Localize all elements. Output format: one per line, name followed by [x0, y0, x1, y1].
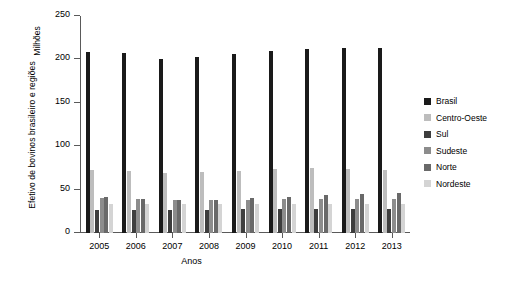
- x-axis-title-text: Anos: [181, 256, 202, 266]
- bar-brasil-2006: [122, 53, 126, 233]
- bar-sul-2005: [95, 210, 99, 233]
- bar-nordeste-2005: [109, 204, 113, 233]
- x-tick-label-2012: 2012: [345, 241, 365, 251]
- y-tick-mark: [74, 145, 80, 146]
- legend-item-label: Sul: [436, 130, 448, 139]
- bar-centrooeste-2010: [273, 169, 277, 233]
- y-tick-label: 0: [65, 226, 70, 236]
- x-tick-mark-2009: [246, 233, 247, 238]
- bar-group-2010: [264, 16, 301, 233]
- x-tick-mark-2011: [319, 233, 320, 238]
- plot-area: [81, 16, 410, 233]
- bar-sul-2011: [314, 209, 318, 233]
- bar-nordeste-2007: [182, 204, 186, 233]
- bar-norte-2012: [360, 194, 364, 233]
- bar-centrooeste-2007: [163, 173, 167, 233]
- x-tick-label-2013: 2013: [382, 241, 402, 251]
- legend-item-sudeste[interactable]: Sudeste: [424, 143, 487, 160]
- y-axis-unit-label: Milhões: [32, 11, 42, 71]
- y-tick-label: 100: [55, 139, 70, 149]
- y-tick-100: 100: [74, 145, 80, 146]
- legend-item-nordeste[interactable]: Nordeste: [424, 176, 487, 193]
- x-tick-mark-2012: [355, 233, 356, 238]
- y-tick-mark: [74, 102, 80, 103]
- bar-sudeste-2005: [100, 198, 104, 233]
- y-tick-200: 200: [74, 58, 80, 59]
- bar-nordeste-2006: [145, 204, 149, 233]
- bar-norte-2011: [324, 195, 328, 233]
- bar-nordeste-2011: [328, 204, 332, 233]
- legend-item-norte[interactable]: Norte: [424, 159, 487, 176]
- bar-brasil-2011: [305, 49, 309, 233]
- y-tick-250: 250: [74, 15, 80, 16]
- bar-norte-2008: [214, 200, 218, 233]
- legend-swatch-icon: [424, 114, 431, 121]
- bar-nordeste-2012: [365, 204, 369, 233]
- bar-centrooeste-2013: [383, 170, 387, 233]
- bar-nordeste-2010: [292, 204, 296, 233]
- bar-norte-2010: [287, 197, 291, 233]
- y-tick-150: 150: [74, 102, 80, 103]
- y-tick-mark: [74, 58, 80, 59]
- bar-sudeste-2013: [392, 199, 396, 233]
- x-tick-mark-2007: [172, 233, 173, 238]
- bar-sul-2013: [387, 209, 391, 233]
- legend-item-brasil[interactable]: Brasil: [424, 93, 487, 110]
- bar-centrooeste-2012: [346, 169, 350, 233]
- legend-swatch-icon: [424, 98, 431, 105]
- x-tick-mark-2013: [392, 233, 393, 238]
- bar-brasil-2012: [342, 48, 346, 233]
- bar-sul-2009: [241, 209, 245, 233]
- x-tick-mark-2008: [209, 233, 210, 238]
- bar-norte-2009: [250, 198, 254, 233]
- legend-swatch-icon: [424, 147, 431, 154]
- legend-swatch-icon: [424, 131, 431, 138]
- y-tick-mark: [74, 189, 80, 190]
- bar-group-2013: [373, 16, 410, 233]
- bar-norte-2007: [177, 200, 181, 233]
- y-tick-label: 200: [55, 52, 70, 62]
- legend-swatch-icon: [424, 180, 431, 187]
- bar-nordeste-2013: [401, 204, 405, 233]
- bar-group-2005: [81, 16, 118, 233]
- bar-centrooeste-2005: [90, 170, 94, 233]
- y-tick-0: 0: [74, 232, 80, 233]
- x-tick-mark-2005: [99, 233, 100, 238]
- x-tick-mark-2006: [136, 233, 137, 238]
- bar-sul-2007: [168, 210, 172, 233]
- bar-sul-2008: [205, 210, 209, 233]
- bar-sudeste-2007: [173, 200, 177, 233]
- x-tick-label-2010: 2010: [272, 241, 292, 251]
- bar-sul-2012: [351, 209, 355, 233]
- legend-item-centrooeste[interactable]: Centro-Oeste: [424, 110, 487, 127]
- y-tick-mark: [74, 15, 80, 16]
- bar-centrooeste-2009: [237, 171, 241, 233]
- bar-brasil-2005: [86, 52, 90, 233]
- bar-brasil-2013: [378, 48, 382, 233]
- x-tick-mark-2010: [282, 233, 283, 238]
- y-tick-label: 150: [55, 96, 70, 106]
- bar-sudeste-2010: [282, 199, 286, 233]
- bar-sudeste-2009: [246, 200, 250, 233]
- legend-item-sul[interactable]: Sul: [424, 126, 487, 143]
- bar-norte-2006: [141, 199, 145, 233]
- bar-sudeste-2006: [136, 199, 140, 233]
- x-tick-label-2008: 2008: [199, 241, 219, 251]
- bar-group-2011: [300, 16, 337, 233]
- bar-centrooeste-2008: [200, 172, 204, 233]
- legend-swatch-icon: [424, 164, 431, 171]
- bar-norte-2005: [104, 197, 108, 233]
- y-tick-label: 250: [55, 9, 70, 19]
- bar-brasil-2008: [195, 57, 199, 233]
- bar-nordeste-2009: [255, 204, 259, 233]
- legend-item-label: Brasil: [436, 97, 457, 106]
- x-tick-label-2007: 2007: [162, 241, 182, 251]
- bar-norte-2013: [397, 193, 401, 233]
- x-tick-label-2011: 2011: [309, 241, 328, 251]
- bar-sudeste-2008: [209, 200, 213, 233]
- bar-group-2007: [154, 16, 191, 233]
- bar-sudeste-2012: [355, 199, 359, 233]
- bar-brasil-2009: [232, 54, 236, 233]
- legend-item-label: Centro-Oeste: [436, 114, 487, 123]
- x-tick-label-2009: 2009: [235, 241, 255, 251]
